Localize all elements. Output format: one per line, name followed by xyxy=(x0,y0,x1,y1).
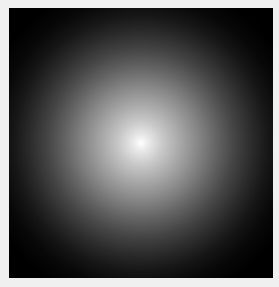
image-canvas xyxy=(9,8,273,278)
image-frame xyxy=(0,0,279,287)
radial-glow xyxy=(9,8,273,278)
